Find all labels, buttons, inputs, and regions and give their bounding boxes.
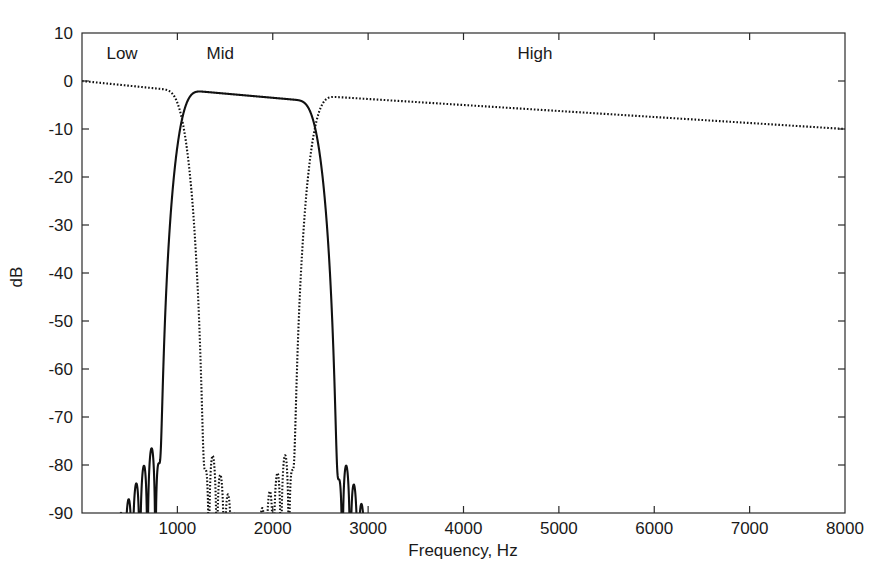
y-axis-tick-labels: 100-10-20-30-40-50-60-70-80-90: [48, 24, 73, 523]
x-tick-label: 4000: [445, 519, 483, 538]
band-label-low: Low: [106, 44, 138, 63]
band-label-high: High: [518, 44, 553, 63]
y-tick-label: -20: [48, 168, 73, 187]
y-tick-label: -60: [48, 360, 73, 379]
y-tick-label: -80: [48, 456, 73, 475]
x-tick-label: 5000: [540, 519, 578, 538]
y-tick-label: 10: [54, 24, 73, 43]
x-axis-tick-labels: 10002000300040005000600070008000: [158, 519, 863, 538]
x-axis-title: Frequency, Hz: [408, 541, 517, 560]
y-tick-label: -50: [48, 312, 73, 331]
x-tick-label: 1000: [158, 519, 196, 538]
x-tick-label: 7000: [731, 519, 769, 538]
y-axis-title: dB: [7, 267, 26, 288]
filter-response-chart: 10002000300040005000600070008000 100-10-…: [0, 0, 883, 583]
x-tick-label: 6000: [635, 519, 673, 538]
y-tick-label: -90: [48, 504, 73, 523]
y-tick-label: -70: [48, 408, 73, 427]
x-tick-label: 8000: [826, 519, 864, 538]
y-tick-label: -30: [48, 216, 73, 235]
x-tick-label: 2000: [254, 519, 292, 538]
chart-canvas: 10002000300040005000600070008000 100-10-…: [0, 0, 883, 583]
y-tick-label: -40: [48, 264, 73, 283]
y-tick-label: -10: [48, 120, 73, 139]
band-label-mid: Mid: [207, 44, 234, 63]
x-tick-label: 3000: [349, 519, 387, 538]
y-tick-label: 0: [64, 72, 73, 91]
